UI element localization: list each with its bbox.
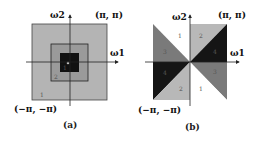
- region-label-1-top: 1: [178, 32, 182, 39]
- region-label-2-top: 2: [199, 32, 203, 39]
- region-label-4-right: 4: [213, 48, 217, 55]
- corner-top-right-label: (π, π): [95, 10, 123, 21]
- region-label-1: 1: [40, 91, 44, 98]
- caption-a: (a): [63, 120, 77, 130]
- panel-b: 1 2 3 4 4 3 2 1 ω2 ω1 (π, π) (−π, −π) (b…: [138, 10, 246, 132]
- caption-b: (b): [185, 122, 200, 132]
- axis-y-label: ω2: [172, 12, 187, 22]
- corner-bottom-left-label: (−π, −π): [14, 104, 57, 115]
- region-label-2-bottom: 2: [179, 85, 183, 92]
- region-label-3-right: 3: [213, 68, 217, 75]
- panel-a: 1 2 1 ω2 ω1 (π, π) (−π, −π) (a): [14, 10, 125, 130]
- region-label-2: 2: [54, 73, 58, 80]
- axis-x-label: ω1: [110, 48, 125, 58]
- region-label-4-left: 4: [163, 69, 167, 76]
- corner-bottom-left-label: (−π, −π): [138, 105, 181, 116]
- axis-y-label: ω2: [50, 10, 65, 20]
- region-label-3-left: 3: [163, 48, 167, 55]
- axis-x-label: ω1: [230, 48, 245, 58]
- region-label-3: 1: [63, 64, 67, 71]
- region-label-1-bottom: 1: [199, 85, 203, 92]
- frequency-diagram: 1 2 1 ω2 ω1 (π, π) (−π, −π) (a) 1 2 3 4 …: [0, 0, 263, 141]
- corner-top-right-label: (π, π): [218, 10, 246, 21]
